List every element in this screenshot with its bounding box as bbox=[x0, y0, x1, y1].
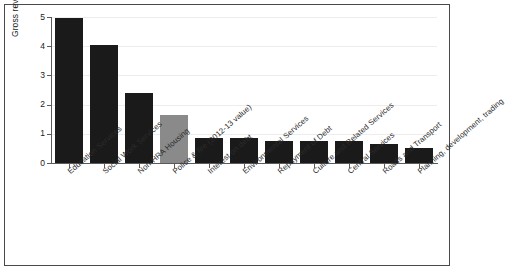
y-axis-tick-label: 5 bbox=[25, 13, 45, 22]
y-axis-tick bbox=[47, 46, 52, 47]
y-axis-tick-label: 3 bbox=[25, 71, 45, 80]
y-axis-tick bbox=[47, 105, 52, 106]
y-axis-tick bbox=[47, 134, 52, 135]
y-axis-tick-label: 4 bbox=[25, 42, 45, 51]
y-axis-tick bbox=[47, 163, 52, 164]
y-axis-tick-label: 1 bbox=[25, 129, 45, 138]
y-axis-tick bbox=[47, 17, 52, 18]
bar bbox=[55, 18, 83, 163]
y-axis-tick-label: 2 bbox=[25, 100, 45, 109]
y-axis-tick-label: 0 bbox=[25, 159, 45, 168]
y-axis-tick bbox=[47, 75, 52, 76]
y-axis-tick-labels: 012345 bbox=[20, 0, 45, 272]
